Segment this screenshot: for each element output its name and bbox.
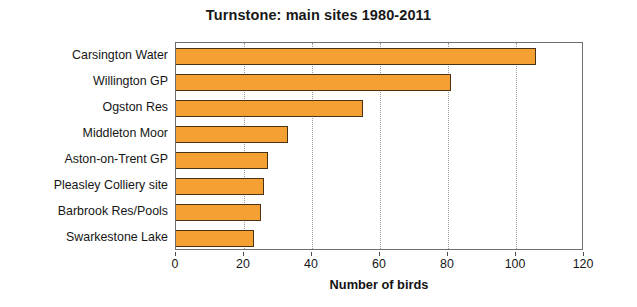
x-tick-label-100: 100 — [505, 257, 526, 271]
bar-chart: Turnstone: main sites 1980-2011 Carsingt… — [0, 0, 637, 307]
x-tick-mark-80 — [447, 252, 448, 256]
bar-row — [176, 230, 582, 247]
plot-area — [175, 42, 583, 250]
bar — [176, 100, 363, 117]
x-tick-label-80: 80 — [440, 257, 454, 271]
chart-title: Turnstone: main sites 1980-2011 — [0, 7, 637, 23]
x-tick-label-20: 20 — [236, 257, 250, 271]
bar-row — [176, 204, 582, 221]
x-tick-label-120: 120 — [573, 257, 594, 271]
y-axis-label: Middleton Moor — [0, 126, 168, 140]
bar-row — [176, 152, 582, 169]
x-tick-label-0: 0 — [172, 257, 179, 271]
bar-row — [176, 178, 582, 195]
x-tick-mark-20 — [243, 252, 244, 256]
bar — [176, 126, 288, 143]
y-axis-label: Barbrook Res/Pools — [0, 204, 168, 218]
bars-layer — [176, 43, 582, 249]
x-tick-mark-40 — [311, 252, 312, 256]
x-tick-label-60: 60 — [372, 257, 386, 271]
y-axis-label: Pleasley Colliery site — [0, 178, 168, 192]
x-tick-mark-60 — [379, 252, 380, 256]
x-tick-mark-100 — [515, 252, 516, 256]
bar — [176, 230, 254, 247]
bar-row — [176, 126, 582, 143]
y-axis-label: Aston-on-Trent GP — [0, 152, 168, 166]
bar — [176, 204, 261, 221]
y-axis-label: Ogston Res — [0, 100, 168, 114]
bar-row — [176, 48, 582, 65]
bar — [176, 48, 536, 65]
x-tick-mark-120 — [583, 252, 584, 256]
bar — [176, 152, 268, 169]
y-axis-label: Swarkestone Lake — [0, 230, 168, 244]
y-axis-label: Willington GP — [0, 74, 168, 88]
x-axis-ticks: 020406080100120 — [0, 252, 637, 274]
bar-row — [176, 100, 582, 117]
bar — [176, 74, 451, 91]
x-tick-mark-0 — [175, 252, 176, 256]
x-tick-label-40: 40 — [304, 257, 318, 271]
y-axis-label: Carsington Water — [0, 48, 168, 62]
y-axis-category-labels: Carsington WaterWillington GPOgston ResM… — [0, 42, 168, 250]
x-axis-title: Number of birds — [175, 277, 583, 292]
bar-row — [176, 74, 582, 91]
bar — [176, 178, 264, 195]
